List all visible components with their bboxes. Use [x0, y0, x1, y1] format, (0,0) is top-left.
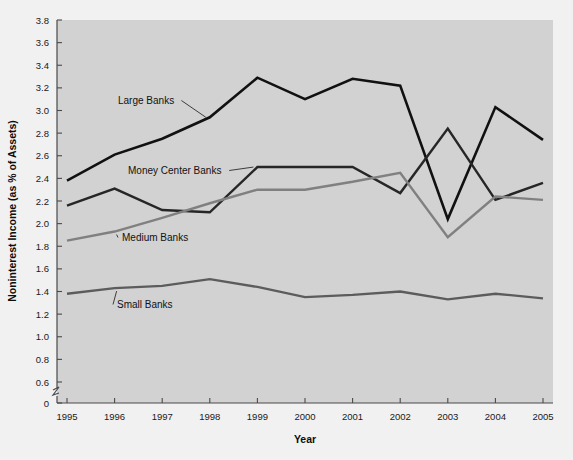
x-tick-label: 2003	[437, 411, 458, 422]
y-tick-label: 0	[44, 398, 49, 409]
y-tick-label: 3.4	[36, 60, 49, 71]
y-axis-title: Noninterest Income (as % of Assets)	[6, 120, 18, 302]
y-tick-label: 1.2	[36, 309, 49, 320]
y-tick-label: 3.0	[36, 105, 49, 116]
y-tick-label: 2.8	[36, 128, 49, 139]
line-chart: 00.60.81.01.21.41.61.82.02.22.42.62.83.0…	[0, 0, 573, 460]
y-tick-label: 0.8	[36, 354, 49, 365]
x-tick-label: 2005	[532, 411, 553, 422]
x-tick-label: 1996	[104, 411, 125, 422]
y-tick-label: 1.0	[36, 331, 49, 342]
y-tick-label: 1.8	[36, 241, 49, 252]
x-tick-label: 2004	[485, 411, 506, 422]
series-annotation: Money Center Banks	[128, 165, 221, 176]
series-annotation: Small Banks	[117, 299, 173, 310]
x-tick-label: 2001	[342, 411, 363, 422]
x-tick-label: 1999	[247, 411, 268, 422]
y-tick-label: 0.6	[36, 377, 49, 388]
series-annotation: Large Banks	[118, 95, 174, 106]
x-tick-label: 1995	[56, 411, 77, 422]
x-tick-label: 2002	[390, 411, 411, 422]
x-axis-title: Year	[294, 433, 316, 445]
y-tick-label: 3.8	[36, 15, 49, 26]
x-tick-label: 1998	[199, 411, 220, 422]
y-tick-label: 2.2	[36, 196, 49, 207]
y-tick-label: 1.6	[36, 263, 49, 274]
y-tick-label: 2.4	[36, 173, 49, 184]
chart-figure: 00.60.81.01.21.41.61.82.02.22.42.62.83.0…	[0, 0, 573, 460]
y-tick-label: 2.6	[36, 150, 49, 161]
x-tick-label: 2000	[294, 411, 315, 422]
x-tick-label: 1997	[152, 411, 173, 422]
series-annotation: Medium Banks	[122, 232, 188, 243]
y-tick-label: 2.0	[36, 218, 49, 229]
y-tick-label: 3.6	[36, 37, 49, 48]
y-tick-label: 3.2	[36, 82, 49, 93]
y-tick-label: 1.4	[36, 286, 49, 297]
